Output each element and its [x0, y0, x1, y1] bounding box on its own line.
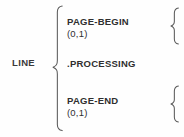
right-top-left-curly-brace-icon: [167, 7, 181, 45]
row-page-begin-title: PAGE-BEGIN: [67, 16, 129, 27]
row-processing-title: .PROCESSING: [67, 58, 136, 69]
row-page-end-subtitle: (0,1): [67, 107, 118, 118]
row-page-end: PAGE-END (0,1): [67, 95, 118, 118]
row-page-begin: PAGE-BEGIN (0,1): [67, 16, 129, 39]
row-page-end-title: PAGE-END: [67, 95, 118, 106]
right-bottom-left-curly-brace-icon: [167, 85, 181, 123]
structure-diagram: LINE PAGE-BEGIN (0,1) .PROCESSING PAGE-E…: [0, 0, 184, 137]
row-page-begin-subtitle: (0,1): [67, 28, 129, 39]
row-processing: .PROCESSING: [67, 58, 136, 69]
main-left-curly-brace-icon: [52, 5, 64, 132]
root-label-line: LINE: [12, 57, 35, 68]
